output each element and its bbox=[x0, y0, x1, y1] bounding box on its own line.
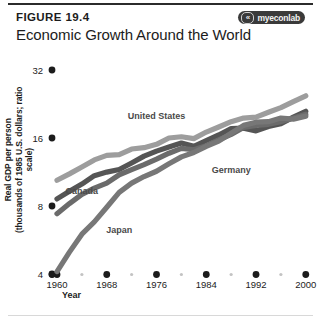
x-tick-dot bbox=[203, 271, 210, 278]
x-tick-dot bbox=[103, 271, 110, 278]
x-tick-label: 1984 bbox=[196, 279, 217, 290]
x-minor-tick-dot bbox=[279, 273, 282, 276]
x-tick-dot bbox=[253, 271, 260, 278]
figure-container: FIGURE 19.4 Economic Growth Around the W… bbox=[0, 0, 321, 320]
annotation-germany: Germany bbox=[212, 165, 251, 175]
bottom-divider bbox=[8, 315, 313, 316]
origin-tick-dot bbox=[49, 271, 56, 278]
y-tick-dot bbox=[49, 135, 56, 142]
series-lines bbox=[57, 96, 306, 272]
y-tick-label: 8 bbox=[38, 201, 43, 212]
x-tick-dot bbox=[302, 271, 309, 278]
x-minor-tick-dot bbox=[230, 273, 233, 276]
x-axis-minor-ticks bbox=[80, 273, 282, 276]
x-tick-label: 1992 bbox=[245, 279, 266, 290]
x-minor-tick-dot bbox=[130, 273, 133, 276]
myeconlab-logo[interactable]: « myeconlab bbox=[238, 11, 305, 24]
x-tick-dot bbox=[153, 271, 160, 278]
y-tick-dot bbox=[49, 67, 56, 74]
annotation-canada: Canada bbox=[66, 186, 100, 196]
chart-area: Real GDP per person (thousands of 1985 U… bbox=[0, 52, 321, 300]
figure-title: Economic Growth Around the World bbox=[16, 25, 308, 44]
x-axis-label: Year bbox=[62, 290, 81, 300]
x-tick-label: 1968 bbox=[96, 279, 117, 290]
y-tick-label: 16 bbox=[32, 133, 43, 144]
x-tick-label: 1976 bbox=[146, 279, 167, 290]
myeconlab-logo-label: myeconlab bbox=[257, 13, 300, 23]
series-line-united-states bbox=[57, 96, 306, 180]
y-tick-dot bbox=[49, 203, 56, 210]
y-tick-label: 32 bbox=[32, 65, 43, 76]
y-tick-label: 4 bbox=[38, 269, 43, 280]
figure-header: FIGURE 19.4 Economic Growth Around the W… bbox=[16, 10, 308, 50]
x-tick-label: 2000 bbox=[295, 279, 316, 290]
annotation-united-states: United States bbox=[128, 111, 186, 121]
x-minor-tick-dot bbox=[180, 273, 183, 276]
x-tick-label: 1960 bbox=[46, 279, 67, 290]
annotation-japan: Japan bbox=[106, 225, 132, 235]
y-axis-ticks: 481632 bbox=[32, 65, 55, 280]
myeconlab-mark-icon: « bbox=[241, 12, 254, 24]
line-chart-svg: 481632 196019681976198419922000 United S… bbox=[0, 52, 321, 300]
x-minor-tick-dot bbox=[80, 273, 83, 276]
top-divider bbox=[8, 3, 313, 5]
